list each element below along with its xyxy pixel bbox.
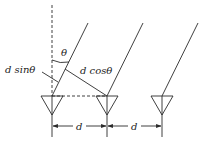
- d-cos-theta-label: d cosθ: [80, 65, 112, 76]
- wave-ray-1: [52, 23, 88, 96]
- wave-ray-3: [162, 23, 198, 96]
- antenna-element-2: [96, 96, 118, 137]
- antenna-array-diagram: θ d sinθ d cosθ d d: [0, 0, 207, 147]
- spacing-label-1: d: [76, 121, 82, 132]
- d-sin-theta-label: d sinθ: [5, 64, 35, 75]
- theta-angle-arc: [52, 60, 69, 63]
- d-sin-theta-leader: [42, 72, 58, 82]
- wave-ray-2: [107, 23, 143, 96]
- theta-label: θ: [61, 47, 67, 58]
- antenna-element-3: [151, 96, 173, 137]
- antenna-element-1: [41, 96, 63, 137]
- spacing-label-2: d: [131, 121, 137, 132]
- diagram-svg: θ d sinθ d cosθ d d: [0, 0, 207, 147]
